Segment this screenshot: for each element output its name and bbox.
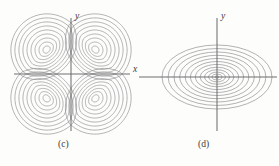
contour-line	[65, 14, 131, 80]
contour-line	[89, 92, 103, 106]
panel-c: y x	[0, 0, 139, 166]
panel-d-caption: (d)	[198, 139, 209, 149]
contour-line	[65, 68, 131, 134]
contour-line	[79, 30, 115, 66]
contour-line	[43, 46, 50, 53]
contour-line	[27, 30, 63, 66]
contour-line	[89, 42, 103, 56]
contour-figure: y x y (c) (d)	[0, 0, 279, 166]
panel-c-caption: (c)	[58, 139, 69, 149]
contour-line	[39, 42, 53, 56]
contour-line	[11, 14, 77, 80]
contour-line	[39, 92, 53, 106]
panel-c-plot: y x	[0, 0, 139, 166]
panel-d-y-axis-label: y	[220, 11, 226, 21]
panel-c-x-axis-label: x	[132, 64, 138, 74]
contour-line	[92, 46, 99, 53]
contour-line	[11, 68, 77, 134]
panel-d-axes	[139, 18, 277, 131]
contour-line	[79, 82, 115, 118]
contour-line	[92, 95, 99, 102]
panel-c-y-axis-label: y	[74, 11, 80, 21]
contour-line	[43, 95, 50, 102]
contour-line	[27, 82, 63, 118]
